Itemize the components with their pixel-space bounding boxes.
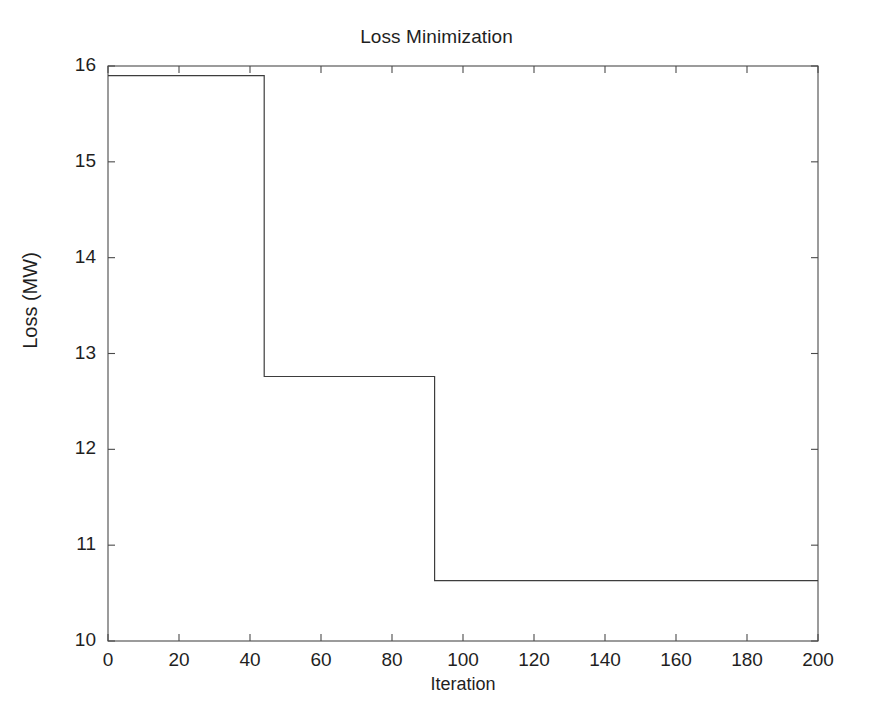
plot-background <box>108 66 818 641</box>
x-tick-label: 160 <box>636 649 716 671</box>
x-tick-label: 40 <box>210 649 290 671</box>
x-tick-label: 180 <box>707 649 787 671</box>
x-tick-label: 100 <box>423 649 503 671</box>
y-tick-label: 13 <box>20 342 96 364</box>
x-tick-label: 120 <box>494 649 574 671</box>
y-tick-label: 11 <box>20 533 96 555</box>
x-tick-label: 140 <box>565 649 645 671</box>
x-tick-label: 200 <box>778 649 858 671</box>
x-tick-label: 0 <box>68 649 148 671</box>
y-tick-label: 12 <box>20 437 96 459</box>
x-tick-label: 60 <box>281 649 361 671</box>
y-tick-label: 10 <box>20 629 96 651</box>
plot-area <box>0 0 873 722</box>
y-tick-label: 15 <box>20 150 96 172</box>
y-tick-label: 14 <box>20 246 96 268</box>
x-tick-label: 20 <box>139 649 219 671</box>
chart-figure: Loss Minimization Loss (MW) Iteration 10… <box>0 0 873 722</box>
y-tick-label: 16 <box>20 54 96 76</box>
x-tick-label: 80 <box>352 649 432 671</box>
